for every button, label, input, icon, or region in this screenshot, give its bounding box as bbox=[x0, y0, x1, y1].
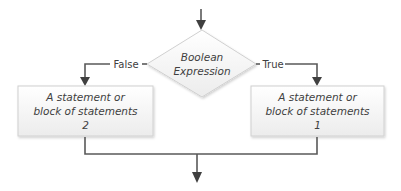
statement-2-line1: A statement or bbox=[45, 91, 125, 103]
decision-label-line2: Expression bbox=[173, 65, 230, 77]
statement-box-2: A statement or block of statements 2 bbox=[18, 86, 153, 136]
arrowhead-icon bbox=[80, 77, 90, 86]
statement-box-1: A statement or block of statements 1 bbox=[251, 86, 384, 136]
true-branch-label: True bbox=[261, 59, 283, 70]
statement-1-line1: A statement or bbox=[277, 91, 357, 103]
if-else-flowchart: Boolean Expression False True A statemen… bbox=[0, 0, 401, 191]
arrowhead-icon bbox=[312, 77, 322, 86]
statement-2-line2: block of statements bbox=[33, 105, 138, 117]
decision-label-line1: Boolean bbox=[181, 51, 224, 63]
arrowhead-icon bbox=[196, 20, 206, 30]
arrowhead-icon bbox=[192, 172, 202, 183]
merge-connector bbox=[85, 137, 317, 154]
statement-1-line2: block of statements bbox=[265, 105, 370, 117]
false-branch-label: False bbox=[113, 59, 138, 70]
false-branch-connector: False bbox=[80, 59, 147, 86]
statement-2-line3: 2 bbox=[82, 119, 89, 131]
decision-boolean-expression: Boolean Expression bbox=[147, 30, 256, 97]
exit-arrow bbox=[192, 154, 202, 183]
true-branch-connector: True bbox=[256, 59, 322, 86]
statement-1-line3: 1 bbox=[314, 119, 321, 131]
entry-arrow bbox=[196, 9, 206, 30]
